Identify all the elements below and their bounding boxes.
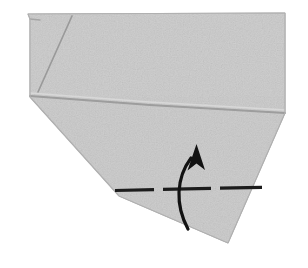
paper-grain-overlay <box>0 0 308 268</box>
fold-dash-segment-2 <box>163 188 211 189</box>
fold-dash-segment-1 <box>115 190 154 191</box>
paper-shape-group <box>0 0 308 268</box>
crease-left-corner-short-line <box>30 19 40 20</box>
fold-dash-segment-3 <box>220 187 262 188</box>
paper-facet-group <box>0 0 308 268</box>
origami-diagram-svg <box>0 0 308 268</box>
origami-figure-root: Origami fold step — valley fold flap upw… <box>0 0 308 268</box>
